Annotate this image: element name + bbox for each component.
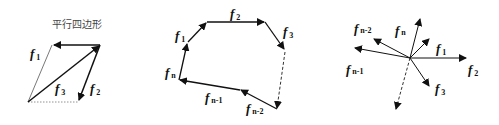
vector-f3 [410, 58, 429, 86]
concurrent-forces-panel: fn-2 fn f1 fn-1 f2 f3 [346, 19, 478, 109]
label-f1: f1 [30, 46, 40, 62]
parallelogram-panel: 平行四边形 f1 f2 f3 [28, 18, 102, 102]
label-fn-1: fn-1 [346, 62, 363, 77]
label-f2: f2 [468, 62, 478, 78]
label-fn: fn [165, 65, 176, 80]
label-f1: f1 [436, 41, 446, 57]
vector-f3 [265, 22, 284, 49]
label-fn-2: fn-2 [354, 21, 371, 36]
vector-fn [410, 19, 420, 58]
vector-fn [179, 44, 187, 80]
vector-dashed-continuation [277, 52, 285, 108]
label-f1: f1 [175, 28, 185, 44]
label-fn-1: fn-1 [205, 90, 222, 105]
label-fn: fn [395, 23, 406, 38]
force-polygon-panel: f1 f2 f3 fn fn-1 fn-2 [165, 6, 293, 116]
vector-fn-1 [180, 80, 240, 90]
label-fn-2: fn-2 [246, 101, 263, 116]
vector-dashed-resultant [396, 58, 410, 109]
label-f2: f2 [90, 81, 100, 97]
label-f2: f2 [230, 6, 240, 22]
vector-f1 [188, 23, 206, 42]
label-f3: f3 [283, 24, 293, 40]
parallelogram-title: 平行四边形 [52, 18, 102, 30]
label-f3: f3 [55, 81, 65, 97]
vector-fn-1 [355, 48, 410, 58]
force-diagrams: 平行四边形 f1 f2 f3 f1 f2 f3 fn fn-1 fn-2 fn-… [0, 0, 499, 125]
label-f3: f3 [435, 81, 445, 97]
